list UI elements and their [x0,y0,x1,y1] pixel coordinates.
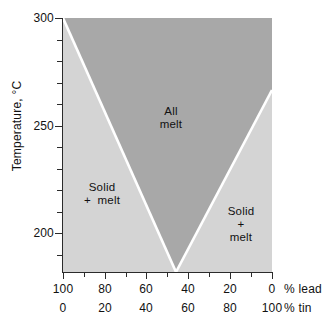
x-tick-label-tin-60: 60 [181,302,195,314]
x-tick-lead-70 [126,273,127,277]
x-tick-lead-30 [209,273,210,277]
phase-diagram-figure: 300 250 200 Temperature, °C 100 80 60 40… [0,0,335,323]
y-tick-label-200: 200 [33,227,54,239]
y-tick-label-250: 250 [33,120,54,132]
x-tick-label-tin-40: 40 [139,302,153,314]
y-tick-200 [55,233,62,234]
y-tick-250 [55,126,62,127]
x-tick-label-lead-100: 100 [53,283,74,295]
x-axis-lead-title: % lead [284,283,322,295]
y-tick-260 [57,104,62,105]
x-tick-label-tin-0: 0 [60,302,67,314]
region-label-solid-melt-right: Solid + melt [228,205,255,244]
y-tick-210 [57,212,62,213]
x-tick-lead-80 [105,273,106,279]
x-tick-lead-60 [146,273,147,279]
x-tick-label-lead-0: 0 [269,283,276,295]
x-tick-label-lead-20: 20 [223,283,237,295]
y-tick-190 [57,255,62,256]
y-tick-label-300: 300 [33,12,54,24]
x-tick-lead-10 [251,273,252,277]
y-axis-line [62,18,63,273]
y-tick-300 [55,18,62,19]
x-tick-label-tin-80: 80 [223,302,237,314]
x-tick-lead-20 [230,273,231,279]
region-label-all-melt: All melt [160,105,183,131]
y-tick-290 [57,40,62,41]
y-tick-240 [57,147,62,148]
y-tick-270 [57,83,62,84]
y-axis-title: Temperature, °C [11,66,23,186]
x-tick-label-tin-100: 100 [262,302,283,314]
x-tick-lead-50 [167,273,168,277]
y-tick-280 [57,61,62,62]
x-tick-lead-100 [63,273,64,279]
x-tick-lead-0 [272,273,273,279]
x-tick-label-lead-40: 40 [181,283,195,295]
x-tick-label-tin-20: 20 [98,302,112,314]
y-tick-220 [57,190,62,191]
x-tick-label-lead-60: 60 [139,283,153,295]
x-tick-lead-40 [188,273,189,279]
region-label-solid-melt-left: Solid + melt [84,181,120,207]
x-axis-tin-title: % tin [284,302,312,314]
x-tick-label-lead-80: 80 [98,283,112,295]
x-tick-lead-90 [84,273,85,277]
y-tick-230 [57,169,62,170]
